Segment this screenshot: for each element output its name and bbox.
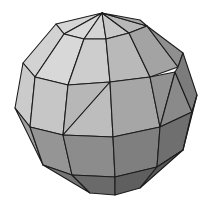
polygon-sphere: [0, 0, 207, 204]
sphere-render: Low-poly flat-shaded gray sphere: [0, 0, 207, 204]
face-band2-1: [30, 77, 68, 135]
face-band3-2: [63, 135, 115, 177]
